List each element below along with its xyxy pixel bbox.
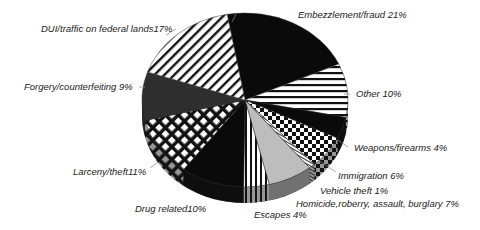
pie-slices — [142, 13, 348, 187]
label-drug-related: Drug related10% — [135, 204, 206, 214]
pie-chart — [0, 0, 480, 230]
label-immigration: Immigration 6% — [338, 171, 404, 181]
label-larceny: Larceny/theft11% — [73, 167, 146, 177]
label-homicide: Homicide,roberry, assault, burglary 7% — [296, 199, 459, 209]
label-embezzlement: Embezzlement/fraud 21% — [298, 10, 407, 20]
label-other: Other 10% — [356, 89, 401, 99]
label-vehicle-theft: Vehicle theft 1% — [320, 186, 388, 196]
label-forgery: Forgery/counterfeiting 9% — [24, 82, 133, 92]
label-escapes: Escapes 4% — [254, 210, 307, 220]
label-dui: DUI/traffic on federal lands17% — [41, 24, 172, 34]
label-weapons: Weapons/firearms 4% — [354, 143, 447, 153]
